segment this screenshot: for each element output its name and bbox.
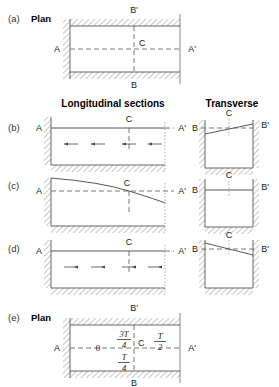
phase-T2-denominator: 2 — [158, 342, 163, 352]
panel-a: (a) Plan A A' B' B C — [8, 5, 196, 90]
panel-b-transverse: B B' C — [192, 108, 269, 175]
panel-a-label-A: A — [54, 44, 60, 54]
panel-d-trans-label-B-prime: B' — [261, 244, 269, 254]
panel-e-phase-three-quarter-T: 3T 4 — [117, 329, 131, 350]
panel-b-long-label-A: A — [36, 123, 42, 133]
panel-a-letter: (a) — [8, 13, 20, 24]
panel-e-phase-half-T: T 2 — [154, 331, 166, 352]
header-longitudinal: Longitudinal sections — [61, 98, 165, 109]
panel-c: (c) A A' C B B' — [8, 170, 269, 234]
phase-T2-numerator: T — [158, 331, 164, 341]
panel-e-left-wall — [63, 318, 70, 378]
panel-d: (d) A A' C — [8, 230, 269, 295]
panel-c-long-water-surface — [51, 178, 165, 203]
panel-c-long-label-C: C — [124, 178, 131, 188]
panel-e-phase-origin: 0 — [96, 343, 101, 353]
panel-d-long-label-A-prime: A' — [178, 246, 186, 256]
panel-d-long-bottom-wall — [51, 288, 165, 295]
panel-d-long-label-C: C — [126, 237, 133, 247]
panel-b: (b) A A' C — [8, 108, 269, 175]
phase-3T-numerator: 3T — [119, 329, 130, 339]
panel-d-long-label-A: A — [36, 246, 42, 256]
panel-e-label-B: B — [131, 378, 137, 387]
panel-b-trans-label-B: B — [192, 123, 198, 133]
panel-d-trans-label-B: B — [192, 244, 198, 254]
panel-c-trans-label-B: B — [192, 185, 198, 195]
panel-a-top-wall — [70, 19, 180, 26]
panel-a-label-C: C — [139, 38, 146, 48]
panel-b-letter: (b) — [8, 122, 20, 133]
panel-a-label-A-prime: A' — [188, 44, 196, 54]
panel-b-trans-label-C: C — [226, 108, 233, 118]
panel-c-long-left-wall — [44, 178, 51, 226]
panel-d-transverse: B B' C — [192, 230, 269, 295]
panel-b-long-bottom-wall — [51, 165, 165, 172]
panel-d-long-left-wall — [44, 240, 51, 288]
panel-b-long-label-C: C — [126, 114, 133, 124]
panel-e: (e) Plan A A' B' B C 0 3T 4 T — [8, 303, 196, 387]
panel-e-top-wall — [70, 318, 180, 325]
panel-e-label-A-prime: A' — [188, 343, 196, 353]
panel-a-bottom-wall — [70, 72, 180, 79]
panel-b-trans-label-B-prime: B' — [261, 120, 269, 130]
panel-d-trans-label-C: C — [226, 230, 233, 240]
phase-T4-numerator: T — [122, 352, 128, 362]
panel-c-long-bottom-wall — [51, 226, 165, 233]
panel-e-phase-quarter-T: T 4 — [118, 352, 130, 373]
panel-b-long-label-A-prime: A' — [178, 123, 186, 133]
panel-a-title: Plan — [31, 13, 51, 24]
panel-c-letter: (c) — [8, 180, 19, 191]
figure-canvas: (a) Plan A A' B' B C Longitudinal sectio… — [0, 0, 279, 387]
panel-a-label-B-prime: B' — [130, 5, 138, 15]
panel-e-label-C: C — [138, 338, 145, 348]
panel-c-trans-label-B-prime: B' — [261, 182, 269, 192]
panel-c-long-label-A-prime: A' — [178, 186, 186, 196]
panel-d-letter: (d) — [8, 243, 20, 254]
phase-3T-denominator: 4 — [122, 340, 127, 350]
panel-c-long-label-A: A — [36, 186, 42, 196]
seiche-diagram-figure: (a) Plan A A' B' B C Longitudinal sectio… — [0, 0, 279, 387]
panel-e-title: Plan — [31, 312, 51, 323]
panel-e-label-B-prime: B' — [130, 303, 138, 313]
panel-b-long-left-wall — [44, 117, 51, 165]
panel-a-left-wall — [63, 19, 70, 79]
panel-e-label-A: A — [54, 343, 60, 353]
panel-c-trans-label-C: C — [226, 170, 233, 180]
panel-e-letter: (e) — [8, 312, 20, 323]
panel-c-transverse: B B' C — [192, 170, 269, 234]
panel-a-label-B: B — [131, 80, 137, 90]
